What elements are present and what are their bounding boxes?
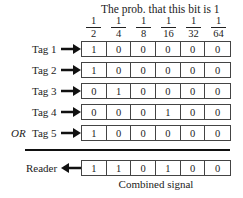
arrow-right-icon: [61, 125, 81, 141]
bit-cell: 0: [181, 84, 206, 98]
bit-cell: 0: [107, 42, 132, 56]
or-separator-line: [25, 149, 230, 151]
tag-bit-row: 100000: [81, 125, 231, 141]
fraction-numerator: 1: [106, 16, 131, 26]
bit-cell: 1: [107, 84, 132, 98]
bit-cell: 0: [205, 105, 230, 119]
fraction-numerator: 1: [156, 16, 181, 26]
bit-cell: 0: [156, 84, 181, 98]
probability-fraction: 164: [206, 16, 231, 39]
bit-cell: 1: [82, 63, 107, 77]
combined-bit-row: 110100: [81, 160, 231, 176]
bit-cell: 0: [205, 84, 230, 98]
tag-label: Tag 2: [32, 62, 57, 78]
bit-cell: 0: [82, 84, 107, 98]
tag-label: Tag 1: [32, 41, 57, 57]
bit-cell: 0: [107, 63, 132, 77]
bit-cell: 0: [82, 105, 107, 119]
arrow-left-icon: [61, 160, 81, 176]
fraction-numerator: 1: [181, 16, 206, 26]
bit-cell: 0: [181, 105, 206, 119]
fraction-numerator: 1: [81, 16, 106, 26]
bit-cell: 0: [205, 161, 230, 175]
bit-cell: 0: [181, 63, 206, 77]
tag-bit-row: 000100: [81, 104, 231, 120]
bit-cell: 1: [107, 161, 132, 175]
probability-fraction: 132: [181, 16, 206, 39]
arrow-right-icon: [61, 83, 81, 99]
bit-cell: 0: [131, 126, 156, 140]
reader-label: Reader: [26, 160, 57, 176]
combined-signal-caption: Combined signal: [81, 178, 231, 190]
bit-cell: 1: [156, 161, 181, 175]
fraction-denominator: 64: [206, 29, 231, 39]
probability-fraction: 18: [131, 16, 156, 39]
fraction-denominator: 8: [131, 29, 156, 39]
fraction-numerator: 1: [131, 16, 156, 26]
bit-cell: 0: [181, 42, 206, 56]
bit-cell: 0: [131, 161, 156, 175]
bit-cell: 0: [107, 105, 132, 119]
arrow-right-icon: [61, 62, 81, 78]
bit-cell: 0: [131, 42, 156, 56]
bit-cell: 0: [131, 63, 156, 77]
bit-cell: 0: [205, 126, 230, 140]
bit-cell: 0: [131, 105, 156, 119]
tag-bit-row: 100000: [81, 62, 231, 78]
bit-cell: 0: [205, 42, 230, 56]
or-label: OR: [11, 125, 26, 141]
bit-cell: 0: [156, 126, 181, 140]
bit-cell: 1: [82, 161, 107, 175]
tag-label: Tag 4: [32, 104, 57, 120]
arrow-right-icon: [61, 104, 81, 120]
bit-cell: 1: [82, 42, 107, 56]
fraction-denominator: 16: [156, 29, 181, 39]
fraction-numerator: 1: [206, 16, 231, 26]
bit-cell: 0: [156, 63, 181, 77]
bit-cell: 0: [181, 161, 206, 175]
arrow-right-icon: [61, 41, 81, 57]
fraction-denominator: 32: [181, 29, 206, 39]
bit-cell: 0: [205, 63, 230, 77]
probability-fraction: 14: [106, 16, 131, 39]
tag-label: Tag 3: [32, 83, 57, 99]
probability-fraction: 116: [156, 16, 181, 39]
fraction-denominator: 4: [106, 29, 131, 39]
tag-bit-row: 010000: [81, 83, 231, 99]
bit-cell: 1: [82, 126, 107, 140]
bit-cell: 0: [181, 126, 206, 140]
bit-cell: 0: [107, 126, 132, 140]
tag-label: Tag 5: [32, 125, 57, 141]
tag-bit-row: 100000: [81, 41, 231, 57]
bit-cell: 0: [156, 42, 181, 56]
diagram-title: The prob. that this bit is 1: [0, 3, 243, 15]
bit-cell: 0: [131, 84, 156, 98]
bit-cell: 1: [156, 105, 181, 119]
probability-fraction: 12: [81, 16, 106, 39]
fraction-denominator: 2: [81, 29, 106, 39]
